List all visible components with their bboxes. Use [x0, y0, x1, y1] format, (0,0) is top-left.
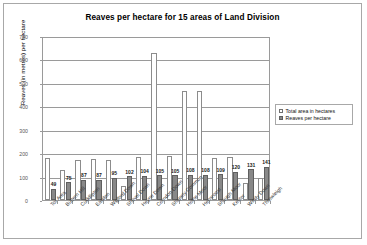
- y-tick-label: 0: [6, 198, 28, 204]
- bar-value-label: 108: [201, 167, 209, 173]
- y-tick-label: 400: [6, 104, 28, 110]
- y-tick-label: 700: [6, 34, 28, 40]
- y-tick-label: 300: [6, 128, 28, 134]
- bar-group[interactable]: 49: [43, 38, 58, 200]
- bar-value-label: 102: [125, 169, 133, 175]
- bar-value-label: 141: [262, 159, 270, 165]
- bar-group[interactable]: 109: [210, 38, 225, 200]
- y-tick-label: 200: [6, 151, 28, 157]
- bar-group[interactable]: 87: [73, 38, 88, 200]
- bar-group[interactable]: 95: [104, 38, 119, 200]
- bar-value-label: 104: [141, 168, 149, 174]
- chart-title: Reaves per hectare for 15 areas of Land …: [4, 13, 361, 22]
- legend-label: Reaves per hectare: [286, 115, 331, 121]
- bar-value-label: 131: [247, 162, 255, 168]
- bar-value-label: 105: [156, 168, 164, 174]
- bar-value-label: 120: [232, 164, 240, 170]
- bar-group[interactable]: 87: [89, 38, 104, 200]
- y-tick-label: 600: [6, 57, 28, 63]
- bar-total-area[interactable]: [151, 53, 156, 200]
- bar-value-label: 49: [51, 181, 57, 187]
- bar-group[interactable]: 105: [149, 38, 164, 200]
- bar-total-area[interactable]: [45, 158, 50, 200]
- chart-screenshot: Reaves per hectare for 15 areas of Land …: [0, 0, 367, 245]
- bar-group[interactable]: 104: [134, 38, 149, 200]
- bar-group[interactable]: 120: [225, 38, 240, 200]
- legend-swatch-icon: [279, 109, 283, 113]
- chart-legend: Total area in hectares Reaves per hectar…: [275, 104, 353, 125]
- bar-value-label: 108: [186, 167, 194, 173]
- bars-layer: 4975878795102104105105108108109120131141: [43, 38, 269, 200]
- bar-value-label: 105: [171, 168, 179, 174]
- chart-container: Reaves per hectare for 15 areas of Land …: [3, 3, 362, 239]
- bar-value-label: 75: [66, 175, 72, 181]
- bar-group[interactable]: 102: [119, 38, 134, 200]
- bar-value-label: 95: [112, 170, 118, 176]
- bar-group[interactable]: 75: [58, 38, 73, 200]
- y-tick-label: 500: [6, 81, 28, 87]
- bar-group[interactable]: 141: [256, 38, 271, 200]
- plot-area: 4975878795102104105105108108109120131141: [42, 37, 270, 201]
- bar-value-label: 87: [81, 172, 87, 178]
- legend-item-total-area[interactable]: Total area in hectares: [279, 108, 350, 114]
- bar-group[interactable]: 131: [241, 38, 256, 200]
- bar-value-label: 87: [96, 172, 102, 178]
- bar-group[interactable]: 108: [180, 38, 195, 200]
- y-tick-label: 100: [6, 175, 28, 181]
- legend-label: Total area in hectares: [286, 108, 336, 114]
- y-axis-title: Reaves (in metres) per hectare: [19, 0, 26, 133]
- bar-group[interactable]: 105: [165, 38, 180, 200]
- bar-value-label: 109: [217, 167, 225, 173]
- y-tick-mark: [40, 201, 42, 202]
- legend-swatch-icon: [279, 116, 283, 120]
- legend-item-reaves[interactable]: Reaves per hectare: [279, 115, 350, 121]
